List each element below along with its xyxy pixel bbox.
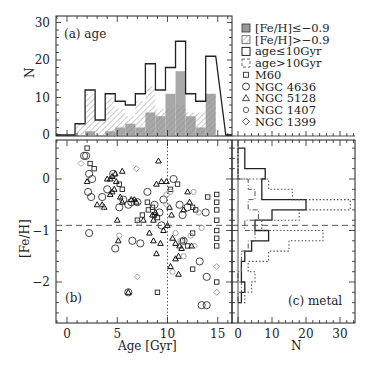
panel-b-frame: [56, 140, 232, 323]
legend-dashed-open-square-icon: [242, 59, 250, 67]
legend-circle-icon: [243, 83, 250, 90]
legend-diamond-icon: [243, 118, 250, 125]
a-y-tick-label: 0: [42, 128, 50, 142]
panel-a-label: (a) age: [64, 27, 106, 41]
panel-a-ylabel: N: [23, 68, 37, 79]
legend-small-square-icon: [244, 72, 249, 77]
b-y-tick-label: −2: [32, 275, 50, 289]
panel-c-label: (c) metal: [288, 294, 342, 308]
age-histogram: [56, 41, 232, 135]
b-y-tick-label: 0: [42, 172, 50, 186]
b-x-tick-label: 15: [210, 327, 225, 341]
a-y-tick-label: 20: [35, 53, 50, 67]
panel-b-label: (b): [65, 291, 82, 305]
legend-label: NGC 1399: [255, 115, 316, 129]
a-y-tick-label: 10: [35, 91, 50, 105]
a-y-tick-label: 30: [35, 16, 50, 30]
b-x-tick-label: 0: [63, 327, 71, 341]
legend-filled-gray-square-icon: [242, 24, 250, 32]
legend-hatched-square-icon: [242, 36, 250, 44]
c-x-tick-label: 30: [332, 327, 347, 341]
c-x-tick-label: 0: [234, 327, 242, 341]
panel-c-xlabel: N: [291, 339, 302, 353]
panel-b-ylabel: [Fe/H]: [18, 219, 32, 258]
b-y-tick-label: −1: [32, 224, 50, 238]
legend-small-circle-icon: [243, 107, 248, 112]
c-x-tick-label: 10: [264, 327, 279, 341]
panel-b-xlabel: Age [Gyr]: [117, 339, 177, 353]
legend-solid-open-square-icon: [242, 47, 250, 55]
legend: [Fe/H]≤−0.9[Fe/H]>−0.9age≤10Gyrage>10Gyr…: [242, 21, 330, 129]
figure: 01020300510150−1−20102030 (a) age N (b) …: [0, 0, 368, 370]
legend-triangle-icon: [243, 95, 250, 101]
metallicity-age-scatter: [56, 140, 232, 323]
